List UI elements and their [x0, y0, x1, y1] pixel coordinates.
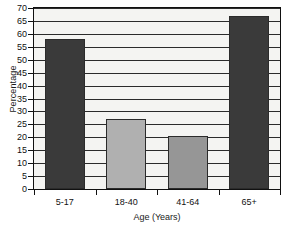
y-axis-tick-mark	[28, 21, 33, 22]
y-axis-tick-mark	[28, 189, 33, 190]
x-axis-tick-mark	[96, 190, 97, 195]
y-axis-tick-mark	[28, 163, 33, 164]
y-axis-tick-label: 40	[8, 81, 27, 90]
y-axis-tick-mark	[28, 47, 33, 48]
y-axis-tick-mark	[28, 137, 33, 138]
x-axis-tick-label: 41-64	[176, 197, 199, 208]
y-axis-tick-label: 35	[8, 94, 27, 103]
x-axis-title: Age (Years)	[33, 212, 281, 222]
x-axis-tick-mark	[280, 190, 281, 195]
y-axis-tick-mark	[28, 73, 33, 74]
y-axis-tick-label: 25	[8, 120, 27, 129]
x-axis-tick-label: 5-17	[56, 197, 74, 208]
bar	[106, 119, 146, 189]
bar	[229, 16, 269, 189]
y-axis-tick-label: 55	[8, 42, 27, 51]
y-axis-tick-mark	[28, 60, 33, 61]
y-axis-tick-label: 5	[8, 172, 27, 181]
y-axis-tick-mark	[28, 176, 33, 177]
y-axis-tick-label: 60	[8, 29, 27, 38]
y-axis-tick-label: 30	[8, 107, 27, 116]
y-axis-tick-mark	[28, 34, 33, 35]
x-axis-tick-mark	[157, 190, 158, 195]
x-axis-tick-mark	[219, 190, 220, 195]
y-axis-tick-label: 0	[8, 185, 27, 194]
y-axis-tick-label: 10	[8, 159, 27, 168]
bar	[168, 136, 208, 189]
bar	[45, 39, 85, 189]
x-axis-tick-mark	[34, 190, 35, 195]
y-axis-tick-labels: 0510152025303540455055606570	[8, 7, 27, 190]
y-axis-tick-label: 65	[8, 16, 27, 25]
plot-area	[33, 7, 281, 190]
y-axis-tick-label: 20	[8, 133, 27, 142]
y-axis-tick-label: 70	[8, 4, 27, 13]
y-axis-tick-label: 50	[8, 55, 27, 64]
bar-chart: Percentage 0510152025303540455055606570 …	[0, 0, 289, 229]
y-axis-tick-mark	[28, 86, 33, 87]
y-axis-tick-mark	[28, 111, 33, 112]
y-axis-tick-mark	[28, 8, 33, 9]
y-axis-tick-label: 15	[8, 146, 27, 155]
y-axis-tick-mark	[28, 150, 33, 151]
x-axis-tick-label: 65+	[242, 197, 257, 208]
y-axis-tick-mark	[28, 99, 33, 100]
y-axis-tick-label: 45	[8, 68, 27, 77]
x-axis-tick-label: 18-40	[115, 197, 138, 208]
gridline	[34, 8, 280, 9]
y-axis-tick-mark	[28, 124, 33, 125]
